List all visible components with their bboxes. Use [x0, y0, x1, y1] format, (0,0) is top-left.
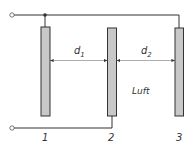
label-plate-1: 1: [42, 133, 48, 143]
label-medium: Luft: [132, 86, 149, 96]
label-d2: d2: [141, 46, 152, 60]
terminal-bottom: [10, 126, 14, 130]
terminal-top: [10, 13, 14, 17]
bottom-wire: [14, 116, 112, 128]
label-plate-2: 2: [108, 133, 114, 143]
plate-2: [108, 28, 117, 116]
top-wire: [14, 13, 179, 28]
plate-1: [41, 27, 50, 116]
plate-3: [175, 28, 184, 116]
capacitor-diagram: [0, 0, 194, 145]
label-plate-3: 3: [176, 133, 182, 143]
label-d1: d1: [74, 46, 85, 60]
junction-dot: [43, 13, 47, 17]
